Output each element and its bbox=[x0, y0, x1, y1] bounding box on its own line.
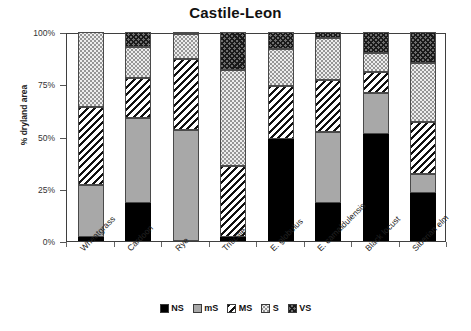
y-axis-tick-label: 50% bbox=[0, 133, 55, 143]
bar-cardoon bbox=[125, 32, 151, 241]
bar-e-globulus bbox=[268, 32, 294, 241]
y-axis-tick-label: 0% bbox=[0, 237, 55, 247]
bar-segment-MS bbox=[315, 80, 341, 132]
bar-segment-MS bbox=[268, 86, 294, 138]
legend-item-mS[interactable]: mS bbox=[193, 304, 219, 313]
x-axis-tick bbox=[399, 242, 400, 247]
x-axis-tick bbox=[161, 242, 162, 247]
bar-segment-S bbox=[410, 63, 436, 122]
bar-segment-S bbox=[220, 70, 246, 166]
bar-segment-mS bbox=[410, 174, 436, 193]
x-axis-tick bbox=[209, 242, 210, 247]
bar-segment-MS bbox=[125, 78, 151, 118]
legend-label-MS: MS bbox=[239, 304, 253, 313]
bar-segment-mS bbox=[173, 130, 199, 241]
bar-rye bbox=[173, 32, 199, 241]
y-axis-tick-label: 75% bbox=[0, 80, 55, 90]
legend-item-VS[interactable]: VS bbox=[288, 304, 312, 313]
bar-segment-MS bbox=[363, 72, 389, 93]
x-axis-tick bbox=[304, 242, 305, 247]
legend-label-S: S bbox=[273, 304, 279, 313]
chart-legend: NSmSMSSVS bbox=[0, 304, 471, 313]
bar-black-locust bbox=[363, 32, 389, 241]
bar-segment-S bbox=[268, 49, 294, 87]
chart-container: Castile-Leon % dryland area 0%25%50%75%1… bbox=[0, 0, 471, 331]
bar-segment-MS bbox=[78, 107, 104, 184]
bar-segment-VS bbox=[220, 32, 246, 70]
bar-segment-S bbox=[315, 38, 341, 80]
bar-segment-S bbox=[173, 34, 199, 59]
bar-segment-VS bbox=[268, 32, 294, 49]
legend-label-mS: mS bbox=[204, 304, 218, 313]
bar-segment-VS bbox=[315, 32, 341, 38]
plot-area bbox=[66, 33, 446, 242]
bar-segment-VS bbox=[363, 32, 389, 53]
legend-swatch-MS bbox=[227, 304, 236, 313]
bar-segment-mS bbox=[315, 132, 341, 203]
x-axis-tick bbox=[114, 242, 115, 247]
bar-e-camaldulensis bbox=[315, 32, 341, 241]
x-axis-tick bbox=[256, 242, 257, 247]
legend-swatch-mS bbox=[193, 304, 202, 313]
bar-siberian-elm bbox=[410, 32, 436, 241]
bar-segment-mS bbox=[125, 118, 151, 204]
bar-segment-VS bbox=[410, 32, 436, 63]
y-axis-tick-label: 100% bbox=[0, 28, 55, 38]
legend-label-NS: NS bbox=[171, 304, 184, 313]
bar-segment-MS bbox=[173, 59, 199, 130]
y-axis-tick-label: 25% bbox=[0, 185, 55, 195]
x-axis-tick bbox=[66, 242, 67, 247]
bar-segment-S bbox=[78, 32, 104, 107]
x-axis-tick bbox=[446, 242, 447, 247]
legend-swatch-S bbox=[261, 304, 270, 313]
legend-swatch-NS bbox=[160, 304, 169, 313]
bar-wheatgrass bbox=[78, 32, 104, 241]
legend-label-VS: VS bbox=[299, 304, 311, 313]
x-axis-tick bbox=[351, 242, 352, 247]
bar-segment-mS bbox=[363, 93, 389, 135]
bar-segment-VS bbox=[125, 32, 151, 47]
bar-segment-S bbox=[363, 53, 389, 72]
bar-segment-VS bbox=[173, 32, 199, 34]
legend-item-NS[interactable]: NS bbox=[160, 304, 184, 313]
y-axis-title: % dryland area bbox=[19, 45, 29, 185]
bar-segment-MS bbox=[410, 122, 436, 174]
bar-triticale bbox=[220, 32, 246, 241]
chart-title: Castile-Leon bbox=[0, 4, 471, 21]
legend-item-MS[interactable]: MS bbox=[227, 304, 252, 313]
bar-segment-S bbox=[125, 47, 151, 78]
legend-item-S[interactable]: S bbox=[261, 304, 279, 313]
legend-swatch-VS bbox=[288, 304, 297, 313]
